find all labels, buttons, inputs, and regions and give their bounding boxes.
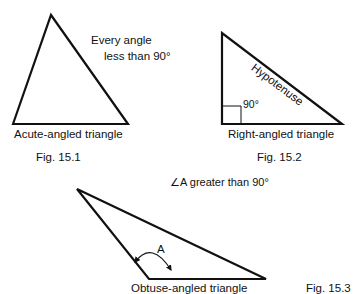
obtuse-triangle [77,189,266,279]
obtuse-annotation: ∠A greater than 90° [170,177,269,188]
obtuse-triangle-title: Obtuse-angled triangle [131,283,247,294]
angle-a-label: A [157,244,165,256]
right-angle-label: 90° [243,99,259,110]
right-triangle [222,33,342,124]
figure-caption-15-1: Fig. 15.1 [36,152,81,164]
acute-annotation-line2: less than 90° [104,51,171,63]
acute-triangle [13,15,128,124]
acute-annotation-line1: Every angle [91,35,152,47]
figure-caption-15-2: Fig. 15.2 [257,152,302,164]
figure-caption-15-3: Fig. 15.3 [306,283,351,294]
triangles-diagram [0,0,358,294]
acute-triangle-title: Acute-angled triangle [14,129,123,141]
right-angle-marker [222,106,241,124]
right-triangle-title: Right-angled triangle [228,129,334,141]
